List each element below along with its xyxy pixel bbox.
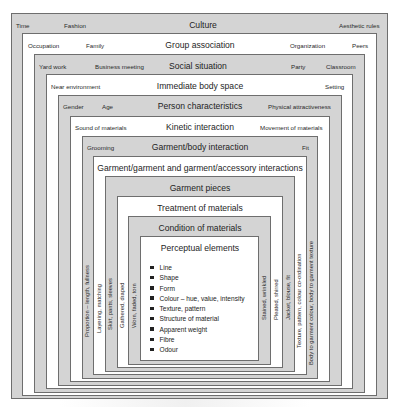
title-group-association: Group association — [165, 40, 234, 50]
bullet-icon — [150, 348, 154, 352]
bullet-icon — [150, 276, 154, 280]
title-treatment-materials: Treatment of materials — [157, 203, 243, 213]
label-classroom: Classroom — [326, 63, 356, 70]
label-physical-attractiveness: Physical attractiveness — [268, 103, 331, 110]
vlabel-skirt-pants: Skirt, pants, sleeves — [107, 278, 113, 330]
title-garment-pieces: Garment pieces — [170, 183, 231, 193]
bullet-icon — [150, 307, 154, 311]
list-item: Apparent weight — [150, 325, 245, 335]
title-culture: Culture — [189, 20, 217, 30]
list-item: Texture, pattern — [150, 304, 245, 314]
vlabel-gathered: Gathered, draped — [119, 283, 125, 328]
label-peers: Peers — [352, 42, 368, 49]
vlabel-layering: Layering, matching — [96, 284, 102, 333]
title-perceptual-elements: Perceptual elements — [161, 243, 239, 253]
label-family: Family — [86, 42, 104, 49]
bullet-icon — [150, 327, 154, 331]
list-item: Line — [150, 263, 245, 273]
label-yard-work: Yard work — [39, 63, 66, 70]
bullet-icon — [150, 338, 154, 342]
label-near-environment: Near environment — [51, 83, 100, 90]
label-grooming: Grooming — [87, 144, 114, 151]
label-business-meeting: Business meeting — [95, 63, 144, 70]
label-setting: Setting — [325, 83, 344, 90]
bullet-icon — [150, 317, 154, 321]
bullet-icon — [150, 286, 154, 290]
title-immediate-body-space: Immediate body space — [157, 81, 243, 91]
list-item: Shape — [150, 273, 245, 283]
label-time: Time — [16, 22, 30, 29]
list-item: Form — [150, 284, 245, 294]
list-item: Colour – hue, value, intensity — [150, 294, 245, 304]
vlabel-worn: Worn, faded, torn — [131, 283, 137, 328]
title-condition-materials: Condition of materials — [158, 223, 241, 233]
title-social-situation: Social situation — [169, 61, 227, 71]
page-shadow — [60, 399, 310, 407]
label-age: Age — [102, 103, 113, 110]
vlabel-pleated: Pleated, shirred — [273, 279, 279, 320]
label-aesthetic-rules: Aesthetic rules — [339, 22, 380, 29]
vlabel-proportion: Proportion – length, fullness — [84, 265, 90, 337]
list-item: Odour — [150, 345, 245, 355]
title-kinetic-interaction: Kinetic interaction — [166, 122, 234, 132]
title-garment-body: Garment/body interaction — [152, 142, 249, 152]
title-garment-garment: Garment/garment and garment/accessory in… — [97, 163, 302, 173]
list-item: Fibre — [150, 335, 245, 345]
vlabel-body-to-garment: Body to garment colour, body to garment … — [308, 241, 314, 365]
title-person-characteristics: Person characteristics — [158, 101, 243, 111]
vlabel-jacket: Jacket, blouse, fit — [285, 275, 291, 320]
vlabel-stained: Stained, wrinkled — [261, 276, 267, 320]
label-occupation: Occupation — [28, 42, 59, 49]
label-organization: Organization — [290, 42, 325, 49]
label-fashion: Fashion — [64, 22, 86, 29]
list-item: Structure of material — [150, 314, 245, 324]
label-fit: Fit — [302, 144, 309, 151]
label-movement-of-materials: Movement of materials — [260, 124, 323, 131]
label-gender: Gender — [63, 103, 84, 110]
bullet-icon — [150, 296, 154, 300]
perceptual-elements-list: Line Shape Form Colour – hue, value, int… — [150, 263, 245, 356]
label-party: Party — [291, 63, 305, 70]
bullet-icon — [150, 266, 154, 270]
label-sound-of-materials: Sound of materials — [75, 124, 127, 131]
vlabel-texture-pattern: Texture, pattern, colour co-ordination — [296, 254, 302, 348]
